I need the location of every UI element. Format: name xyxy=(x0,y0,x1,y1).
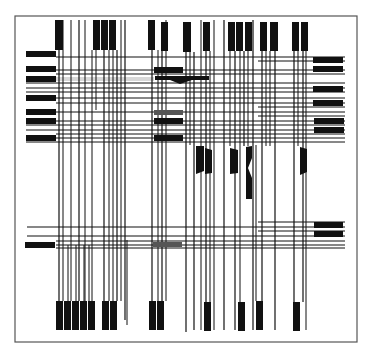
bottom-pin xyxy=(157,301,164,330)
right-pin xyxy=(313,86,343,92)
bottom-pin xyxy=(256,301,263,330)
bottom-pin xyxy=(80,301,87,330)
right-pin xyxy=(314,231,343,237)
mid-block xyxy=(153,242,182,247)
top-pin xyxy=(148,20,155,50)
top-pin xyxy=(161,22,168,51)
bottom-pin xyxy=(88,301,95,330)
wedge-shape xyxy=(300,147,307,175)
mid-block xyxy=(154,110,183,115)
top-pin xyxy=(109,20,116,50)
top-pin xyxy=(301,22,308,51)
wedge-shape xyxy=(205,148,212,174)
bottom-pin xyxy=(238,302,245,331)
left-pin xyxy=(26,51,56,57)
bottom-pin xyxy=(56,301,63,330)
left-pin xyxy=(26,66,56,72)
routing-diagram xyxy=(0,0,372,353)
wedge-shape xyxy=(196,146,204,174)
top-pin xyxy=(270,22,278,51)
top-pin xyxy=(236,22,243,51)
right-pin xyxy=(313,66,343,72)
right-pin xyxy=(313,100,343,106)
right-pin xyxy=(314,118,344,124)
bottom-pin xyxy=(72,301,79,330)
top-pin xyxy=(260,22,267,51)
top-pin xyxy=(292,22,299,51)
left-pin xyxy=(26,95,56,101)
top-pin xyxy=(93,20,100,50)
top-pin xyxy=(245,22,252,51)
top-pin xyxy=(183,22,191,52)
bottom-pin xyxy=(204,302,211,331)
top-pin xyxy=(228,22,235,51)
top-pin xyxy=(203,22,210,51)
mid-block xyxy=(154,118,183,124)
right-pin xyxy=(313,57,343,63)
right-pin xyxy=(314,127,344,133)
left-pin xyxy=(26,109,56,115)
left-pin xyxy=(26,135,56,141)
bottom-pin xyxy=(110,301,117,330)
left-pin xyxy=(26,76,56,82)
bottom-pin xyxy=(102,301,109,330)
diagram-canvas xyxy=(0,0,372,353)
bottom-pin xyxy=(293,302,300,331)
top-pin xyxy=(101,20,108,50)
mid-block xyxy=(154,67,183,73)
bottom-pin xyxy=(64,301,71,330)
top-pin xyxy=(55,20,63,50)
left-pin xyxy=(25,242,55,248)
bottom-pin xyxy=(149,301,156,330)
wedge-shape xyxy=(230,148,238,174)
mid-block xyxy=(154,135,183,141)
right-pin xyxy=(314,222,343,228)
left-pin xyxy=(26,118,56,124)
